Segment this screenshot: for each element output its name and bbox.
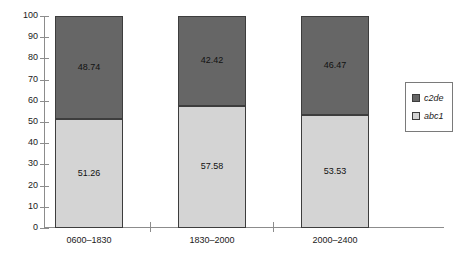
bar-segment-abc1[interactable]: 57.58 — [178, 106, 246, 228]
bar-stack[interactable]: 57.5842.42 — [178, 16, 246, 228]
y-axis-tick — [40, 186, 49, 187]
y-axis-tick — [40, 58, 49, 59]
legend-swatch-icon — [412, 112, 420, 120]
legend-item[interactable]: abc1 — [412, 107, 452, 125]
bar-value-label: 48.74 — [78, 63, 101, 72]
y-axis-tick-label: 80 — [4, 53, 38, 62]
y-axis-tick-label: 30 — [4, 159, 38, 168]
plot-area: 51.2648.7457.5842.4253.5346.47 — [45, 16, 389, 228]
y-axis-tick — [40, 143, 49, 144]
stacked-bar-chart: 1009080706050403020100 51.2648.7457.5842… — [0, 0, 459, 262]
y-axis-tick-labels: 1009080706050403020100 — [0, 0, 38, 262]
bar-segment-c2de[interactable]: 48.74 — [55, 16, 123, 119]
legend-swatch-icon — [412, 94, 420, 102]
y-axis-tick-label: 100 — [4, 11, 38, 20]
y-axis-tick — [40, 207, 49, 208]
bar-segment-c2de[interactable]: 42.42 — [178, 16, 246, 106]
legend-item-label: abc1 — [424, 112, 444, 121]
bar-stack[interactable]: 53.5346.47 — [301, 16, 369, 228]
y-axis-tick-label: 70 — [4, 75, 38, 84]
bar-segment-c2de[interactable]: 46.47 — [301, 16, 369, 115]
x-axis-separator-tick — [273, 222, 274, 232]
y-axis-tick-label: 60 — [4, 96, 38, 105]
y-axis-tick — [40, 228, 49, 229]
y-axis-tick-label: 50 — [4, 117, 38, 126]
y-axis-tick-label: 10 — [4, 202, 38, 211]
y-axis-tick — [40, 101, 49, 102]
y-axis-tick — [40, 16, 49, 17]
y-axis-tick-label: 0 — [4, 223, 38, 232]
legend-item[interactable]: c2de — [412, 89, 452, 107]
y-axis-tick — [40, 164, 49, 165]
bar-value-label: 51.26 — [78, 169, 101, 178]
y-axis-tick-label: 40 — [4, 138, 38, 147]
chart-legend: c2deabc1 — [405, 82, 453, 132]
bar-segment-abc1[interactable]: 53.53 — [301, 115, 369, 228]
bar-value-label: 53.53 — [324, 167, 347, 176]
y-axis-tick — [40, 122, 49, 123]
bar-value-label: 42.42 — [201, 56, 224, 65]
y-axis-tick — [40, 37, 49, 38]
bar-segment-abc1[interactable]: 51.26 — [55, 119, 123, 228]
x-axis-separator-tick — [150, 222, 151, 232]
x-axis-category-label: 0600–1830 — [29, 236, 149, 245]
bar-value-label: 46.47 — [324, 61, 347, 70]
y-axis-tick-label: 20 — [4, 181, 38, 190]
y-axis-tick — [40, 80, 49, 81]
bar-stack[interactable]: 51.2648.74 — [55, 16, 123, 228]
x-axis-category-label: 1830–2000 — [152, 236, 272, 245]
y-axis-tick-label: 90 — [4, 32, 38, 41]
legend-item-label: c2de — [424, 94, 444, 103]
bar-value-label: 57.58 — [201, 162, 224, 171]
x-axis-category-label: 2000–2400 — [275, 236, 395, 245]
